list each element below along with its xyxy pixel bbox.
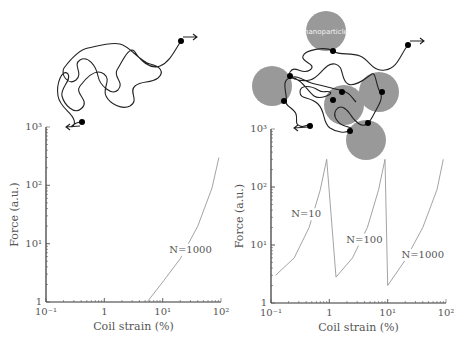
pull-arrow-right-icon bbox=[183, 34, 197, 40]
binding-site bbox=[379, 89, 385, 95]
nanoparticle-label: nanoparticle bbox=[304, 28, 348, 36]
series-line-n-1000 bbox=[388, 159, 444, 285]
x-tick-label: 1 bbox=[101, 306, 107, 317]
polymer-chain bbox=[58, 41, 181, 127]
x-tick-label: 10⁻¹ bbox=[260, 307, 282, 318]
x-axis-title: Coil strain (%) bbox=[318, 321, 399, 334]
x-tick-label: 10¹ bbox=[154, 306, 171, 317]
series-line-n-1000 bbox=[147, 158, 219, 303]
y-tick-label: 10¹ bbox=[25, 238, 42, 249]
left-coil-illustration bbox=[58, 34, 197, 130]
nanoparticle bbox=[346, 120, 386, 160]
y-tick-label: 10³ bbox=[250, 123, 267, 134]
x-tick-label: 10² bbox=[438, 307, 455, 318]
pull-arrow-right-icon bbox=[410, 38, 424, 44]
binding-site bbox=[330, 97, 336, 103]
y-tick-label: 10² bbox=[250, 181, 267, 192]
x-tick-label: 1 bbox=[326, 307, 332, 318]
curve-label: N=10 bbox=[291, 208, 321, 219]
y-tick-label: 10¹ bbox=[250, 239, 267, 250]
figure: nanoparticle 10⁻¹110¹10²110¹10²10³Coil s… bbox=[0, 0, 466, 343]
binding-site bbox=[281, 98, 287, 104]
y-tick-label: 1 bbox=[36, 296, 42, 307]
series-line-n-100 bbox=[336, 159, 388, 285]
y-tick-label: 10³ bbox=[25, 121, 42, 132]
binding-site bbox=[405, 42, 411, 48]
curve-label: N=100 bbox=[346, 234, 382, 245]
x-axis-title: Coil strain (%) bbox=[93, 320, 174, 333]
right-nanoparticle-illustration: nanoparticle bbox=[252, 11, 424, 160]
curve-label: N=1000 bbox=[169, 244, 212, 255]
left-force-strain-chart: 10⁻¹110¹10²110¹10²10³Coil strain (%)Forc… bbox=[8, 121, 229, 333]
binding-site bbox=[347, 128, 353, 134]
chain-end-bead bbox=[79, 119, 85, 125]
chain-end-bead bbox=[178, 38, 184, 44]
curve-label: N=1000 bbox=[401, 249, 444, 260]
binding-site bbox=[287, 73, 293, 79]
x-tick-label: 10⁻¹ bbox=[35, 306, 57, 317]
y-tick-label: 10² bbox=[25, 179, 42, 190]
y-axis-title: Force (a.u.) bbox=[8, 182, 21, 246]
binding-site bbox=[339, 89, 345, 95]
x-tick-label: 10¹ bbox=[379, 307, 396, 318]
binding-site bbox=[330, 48, 336, 54]
x-tick-label: 10² bbox=[213, 306, 230, 317]
right-force-strain-chart: 10⁻¹110¹10²110¹10²10³Coil strain (%)Forc… bbox=[233, 123, 454, 334]
binding-site bbox=[307, 123, 313, 129]
y-tick-label: 1 bbox=[261, 297, 267, 308]
y-axis-title: Force (a.u.) bbox=[233, 184, 246, 248]
binding-site bbox=[365, 120, 371, 126]
